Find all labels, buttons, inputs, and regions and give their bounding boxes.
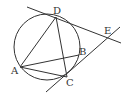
segment-AB [20,55,79,67]
label-point-C: C [66,77,74,88]
segment-DC [56,17,67,77]
segment-AC [20,67,67,77]
label-point-A: A [10,65,19,76]
label-point-E: E [104,25,111,36]
label-point-B: B [79,46,86,57]
label-point-D: D [53,5,61,16]
geometry-diagram: A B C D E [0,0,130,95]
segment-AD [20,17,56,67]
